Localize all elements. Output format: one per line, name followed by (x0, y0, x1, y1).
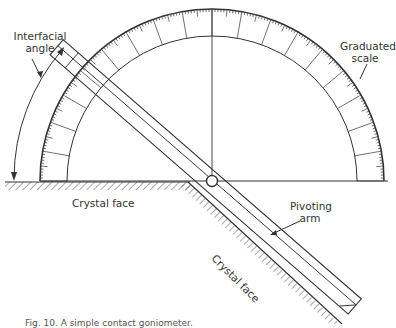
graduated-scale-line2: scale (340, 52, 390, 64)
graduated-scale-label: Graduated scale (340, 40, 390, 64)
pivoting-arm-line2: arm (290, 212, 330, 224)
interfacial-angle-line2: angle (10, 42, 70, 54)
pivoting-arm-line1: Pivoting (290, 200, 330, 212)
graduated-scale-leader (360, 64, 367, 79)
graduated-scale-line1: Graduated (340, 40, 390, 52)
interfacial-angle-label: Interfacial angle (10, 30, 70, 54)
crystal-face-horizontal-label: Crystal face (72, 197, 135, 209)
interfacial-angle-arrow (11, 47, 64, 181)
pivoting-arm (50, 40, 361, 314)
protractor (40, 9, 388, 181)
pivoting-arm-label: Pivoting arm (290, 200, 330, 224)
interfacial-angle-line1: Interfacial (10, 30, 70, 42)
crystal-face-horizontal (5, 182, 190, 190)
figure-caption: Fig. 10. A simple contact goniometer. (25, 318, 193, 328)
pivot-pin (207, 176, 218, 187)
